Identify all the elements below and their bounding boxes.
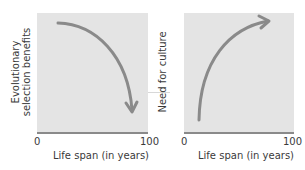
curves-layer	[0, 0, 305, 170]
right-curve-arrow	[199, 16, 269, 120]
left-curve-arrow	[58, 23, 137, 112]
